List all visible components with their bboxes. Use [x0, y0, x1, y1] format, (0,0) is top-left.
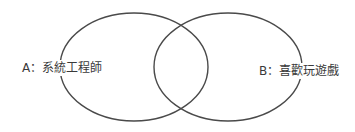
set-b-label: B：喜歡玩遊戲: [259, 63, 339, 79]
set-a-label: A：系統工程師: [22, 60, 102, 76]
